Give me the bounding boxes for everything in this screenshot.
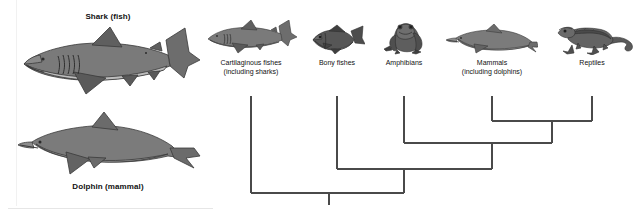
frog-icon: [383, 19, 427, 55]
taxon-label-cartilaginous-fishes: Cartilaginous fishes (including sharks): [199, 58, 303, 76]
shark-illustration: [18, 26, 202, 98]
dolphin-illustration: [18, 112, 202, 178]
shark-icon: [205, 20, 297, 54]
taxon-label-line1: Cartilaginous fishes: [199, 58, 303, 67]
panel-divider-vertical: [16, 0, 17, 206]
taxon-label-line2: (including sharks): [199, 67, 303, 76]
panel-divider-horizontal: [8, 208, 213, 209]
taxon-label-bony-fishes: Bony fishes: [297, 58, 377, 67]
taxon-label-line1: Bony fishes: [297, 58, 377, 67]
bony-fish-icon: [309, 24, 365, 54]
lizard-icon: [554, 21, 636, 55]
taxon-label-line2: (including dolphins): [440, 67, 544, 76]
dolphin-icon: [446, 24, 538, 54]
taxon-label-reptiles: Reptiles: [560, 58, 624, 67]
taxon-label-amphibians: Amphibians: [372, 58, 436, 67]
shark-caption: Shark (fish): [0, 12, 216, 21]
taxon-label-line1: Amphibians: [372, 58, 436, 67]
taxon-label-mammals: Mammals (including dolphins): [440, 58, 544, 76]
comparison-panel: Shark (fish): [0, 0, 216, 217]
taxon-label-line1: Reptiles: [560, 58, 624, 67]
taxon-label-line1: Mammals: [440, 58, 544, 67]
dolphin-caption: Dolphin (mammal): [0, 182, 216, 191]
figure-root: Shark (fish): [0, 0, 644, 217]
